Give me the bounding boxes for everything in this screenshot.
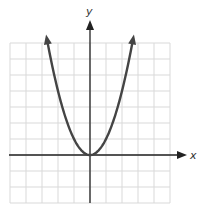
x-axis-arrow-icon [177,151,187,159]
curve-left-arrow-icon [44,34,52,45]
parabola-graph: y x [0,0,200,207]
curve-right-arrow-icon [128,34,136,45]
y-axis-label: y [85,5,93,18]
y-axis-arrow-icon [86,20,94,30]
x-axis-label: x [189,149,197,162]
y-axis [86,20,94,203]
